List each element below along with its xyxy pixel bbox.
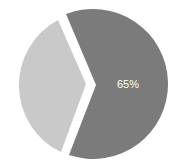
pie-slice-light [19,20,86,152]
slice-label-dark: 65% [117,78,139,90]
pie-chart: 65% [0,0,175,168]
